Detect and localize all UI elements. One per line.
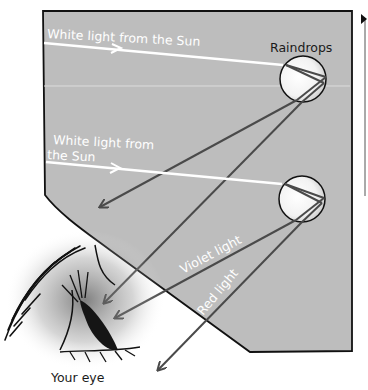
side-scale-arrowhead-icon	[361, 14, 367, 24]
label-your-eye: Your eye	[50, 370, 105, 385]
rainbow-diagram: White light from the Sun Raindrops White…	[0, 0, 368, 390]
eye-illustration	[5, 230, 165, 370]
label-sunlight-mid-line2: the Sun	[47, 147, 96, 165]
label-raindrops: Raindrops	[270, 40, 332, 55]
